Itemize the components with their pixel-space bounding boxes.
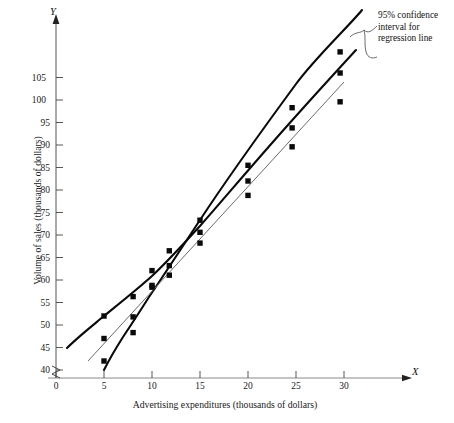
y-axis-title: Volume of sales (thousands of dollars) [32, 111, 43, 311]
y-tick-label: 40 [26, 365, 50, 375]
regression-line [88, 82, 344, 361]
y-axis-ticks [56, 78, 63, 371]
annotation-line-1: 95% confidence [378, 10, 454, 22]
y-tick-label: 100 [22, 95, 46, 105]
y-tick-label: 45 [26, 343, 50, 353]
y-axis [53, 14, 60, 378]
upper-curve-markers [101, 49, 342, 318]
x-tick-label: 20 [237, 381, 259, 391]
regression-plot [0, 0, 454, 423]
y-tick-label: 50 [26, 320, 50, 330]
x-axis-title: Advertising expenditures (thousands of d… [60, 399, 390, 410]
confidence-interval-annotation: 95% confidence interval for regression l… [378, 10, 454, 45]
x-tick-label: 0 [45, 381, 67, 391]
chart-page: 40 45 50 55 60 65 70 75 80 85 90 95 100 … [0, 0, 454, 423]
x-tick-label: 25 [285, 381, 307, 391]
y-tick-label: 105 [22, 73, 46, 83]
annotation-line-2: interval for [378, 22, 454, 34]
upper-confidence-curve [67, 50, 356, 348]
x-tick-label: 30 [333, 381, 355, 391]
x-tick-label: 15 [189, 381, 211, 391]
x-axis-letter: X [412, 366, 418, 377]
regression-line-markers [101, 70, 342, 341]
lower-confidence-curve [104, 10, 362, 370]
y-axis-letter: Y [50, 6, 56, 17]
annotation-line-3: regression line [378, 33, 454, 45]
x-tick-label: 10 [141, 381, 163, 391]
lower-curve-markers [101, 99, 342, 364]
x-tick-label: 5 [93, 381, 115, 391]
x-axis-ticks [56, 371, 344, 378]
